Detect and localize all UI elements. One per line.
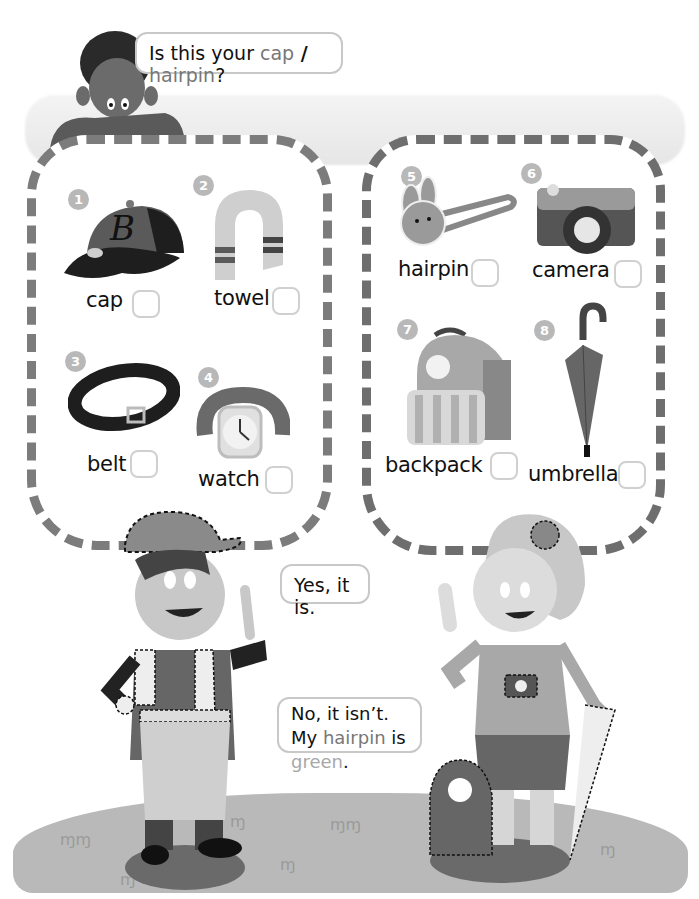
towel-icon	[205, 185, 290, 285]
baseball-boy-illustration	[95, 500, 275, 880]
question-suffix: ?	[215, 64, 225, 86]
grass-tuft: ɱ	[280, 855, 296, 874]
item-label-backpack: backpack	[385, 453, 482, 477]
no-answer-item: hairpin	[323, 727, 386, 748]
item-label-hairpin: hairpin	[398, 257, 469, 281]
no-answer-line2: My hairpin is green.	[291, 726, 420, 774]
no-answer-mid: is	[386, 727, 406, 748]
question-separator: /	[294, 42, 308, 64]
watch-icon	[195, 385, 290, 465]
checkbox-watch[interactable]	[265, 466, 293, 494]
checkbox-camera[interactable]	[614, 260, 642, 288]
checkbox-umbrella[interactable]	[618, 461, 646, 489]
item-label-watch: watch	[198, 467, 260, 491]
umbrella-icon	[555, 300, 615, 460]
girl-illustration	[420, 505, 620, 880]
yes-answer-text: Yes, it is.	[294, 574, 349, 618]
no-answer-suffix: .	[343, 751, 349, 772]
checkbox-backpack[interactable]	[490, 452, 518, 480]
item-label-camera: camera	[532, 258, 610, 282]
item-label-towel: towel	[214, 286, 270, 310]
no-speech-bubble: No, it isn’t. My hairpin is green.	[277, 697, 422, 753]
grass-tuft: ɱɱ	[60, 830, 91, 849]
belt-icon	[68, 362, 180, 437]
checkbox-belt[interactable]	[130, 450, 158, 478]
question-option-cap: cap	[260, 42, 294, 64]
item-label-belt: belt	[87, 452, 126, 476]
item-label-cap: cap	[86, 288, 123, 312]
question-speech-bubble: Is this your cap / hairpin?	[135, 32, 343, 74]
no-answer-prefix: My	[291, 727, 323, 748]
camera-icon	[535, 178, 645, 258]
no-answer-line1: No, it isn’t.	[291, 702, 420, 726]
checkbox-hairpin[interactable]	[471, 259, 499, 287]
checkbox-towel[interactable]	[272, 287, 300, 315]
svg-text:B: B	[109, 208, 135, 248]
yes-speech-bubble: Yes, it is.	[280, 564, 370, 604]
item-label-umbrella: umbrella	[528, 462, 618, 486]
hairpin-icon	[393, 175, 518, 247]
cap-icon: B	[62, 198, 192, 288]
no-answer-color: green	[291, 751, 343, 772]
question-option-hairpin: hairpin	[149, 64, 215, 86]
backpack-icon	[405, 325, 520, 450]
item-number-badge: 8	[534, 320, 555, 341]
grass-tuft: ɱɱ	[330, 815, 361, 834]
question-prefix: Is this your	[149, 42, 260, 64]
checkbox-cap[interactable]	[132, 290, 160, 318]
